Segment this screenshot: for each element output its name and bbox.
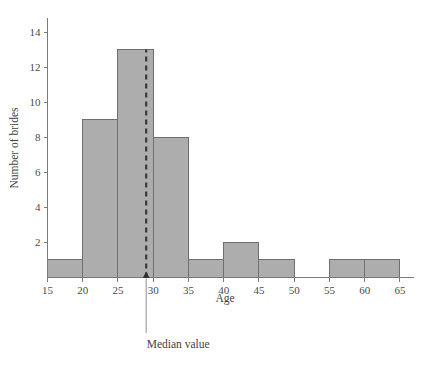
histogram-bar: [188, 260, 223, 278]
x-tick-label: 15: [42, 284, 54, 296]
y-tick-label: 12: [30, 61, 41, 73]
chart-canvas: 2468101214 1520253035404550556065 Age Nu…: [0, 0, 427, 370]
y-tick-label: 4: [35, 201, 41, 213]
x-tick-label: 25: [112, 284, 124, 296]
histogram-bar: [224, 242, 259, 277]
x-tick-label: 30: [148, 284, 160, 296]
histogram-bar: [365, 260, 400, 278]
x-tick-label: 45: [253, 284, 265, 296]
x-tick-label: 50: [289, 284, 301, 296]
x-axis-title: Age: [215, 292, 234, 305]
histogram-bar: [329, 260, 364, 278]
y-tick-label: 10: [30, 96, 42, 108]
y-tick-label: 2: [35, 236, 41, 248]
histogram-bar: [153, 137, 188, 277]
x-tick-label: 65: [394, 284, 406, 296]
histogram-chart: 2468101214 1520253035404550556065 Age Nu…: [0, 0, 427, 370]
bars-group: [48, 50, 400, 278]
y-tick-label: 8: [35, 131, 41, 143]
x-tick-label: 55: [324, 284, 336, 296]
y-axis-title: Number of brides: [8, 107, 20, 189]
y-tick-label: 14: [30, 26, 42, 38]
x-tick-label: 60: [359, 284, 371, 296]
median-value-label: Median value: [147, 338, 210, 350]
x-tick-label: 35: [183, 284, 195, 296]
x-tick-label: 20: [77, 284, 89, 296]
y-tick-label: 6: [35, 166, 41, 178]
histogram-bar: [118, 50, 153, 278]
histogram-bar: [83, 120, 118, 278]
histogram-bar: [259, 260, 294, 278]
y-axis-ticks: 2468101214: [30, 26, 48, 248]
histogram-bar: [48, 260, 83, 278]
